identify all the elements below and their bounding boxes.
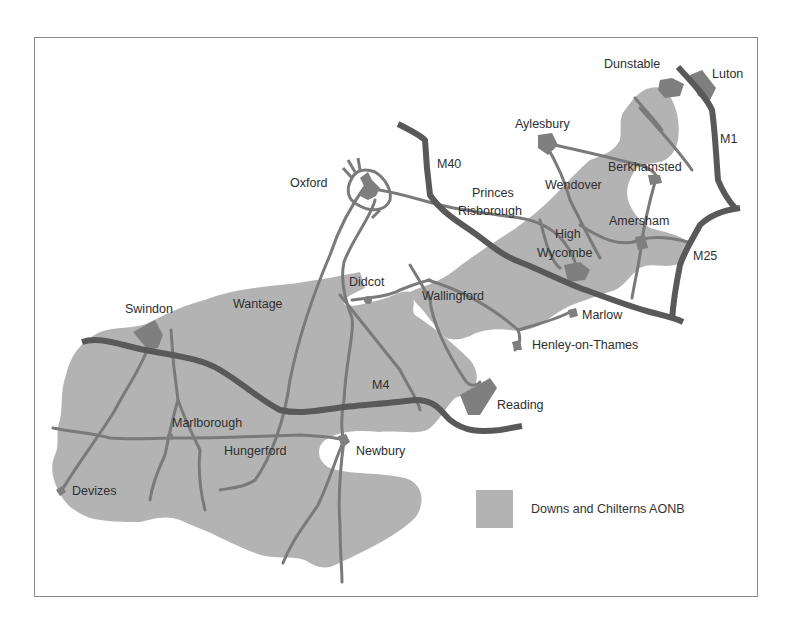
label-wantage: Wantage	[233, 297, 283, 311]
label-risborough: Risborough	[458, 204, 522, 218]
label-marlow: Marlow	[582, 308, 622, 322]
label-swindon: Swindon	[125, 302, 173, 316]
map-canvas	[0, 0, 795, 628]
label-henley: Henley-on-Thames	[532, 338, 638, 352]
label-m1: M1	[720, 132, 737, 146]
label-oxford: Oxford	[290, 176, 328, 190]
label-didcot: Didcot	[349, 275, 384, 289]
label-reading: Reading	[497, 398, 544, 412]
label-aylesbury: Aylesbury	[515, 117, 570, 131]
label-marlborough: Marlborough	[172, 416, 242, 430]
label-devizes: Devizes	[72, 484, 116, 498]
label-m4: M4	[372, 378, 389, 392]
label-m40: M40	[437, 157, 461, 171]
newbury-town	[338, 434, 350, 448]
berkhamsted-town	[648, 175, 662, 185]
didcot-town	[364, 296, 372, 304]
label-hungerford: Hungerford	[224, 444, 287, 458]
m25-motorway	[672, 208, 740, 320]
label-wallingford: Wallingford	[422, 289, 484, 303]
label-newbury: Newbury	[356, 444, 405, 458]
label-dunstable: Dunstable	[604, 57, 660, 71]
oxford-town	[360, 172, 380, 200]
label-m25: M25	[693, 249, 717, 263]
legend-label: Downs and Chilterns AONB	[531, 502, 685, 516]
label-wycombe: Wycombe	[537, 246, 592, 260]
label-high: High	[555, 227, 581, 241]
legend-swatch-aonb	[476, 490, 513, 528]
label-amersham: Amersham	[609, 214, 669, 228]
label-wendover: Wendover	[545, 178, 602, 192]
marlborough-town	[167, 433, 173, 439]
label-princes: Princes	[472, 186, 514, 200]
marlow-town	[568, 308, 578, 318]
label-luton: Luton	[712, 67, 743, 81]
label-berkhamsted: Berkhamsted	[608, 160, 682, 174]
aylesbury-town	[538, 133, 558, 155]
